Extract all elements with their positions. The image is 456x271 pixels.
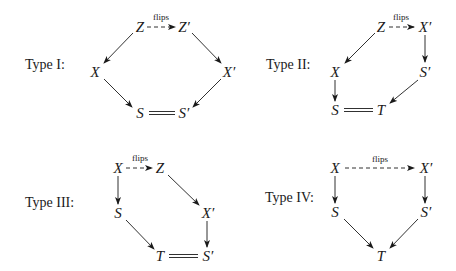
node-type1-top-left: Z [136, 19, 144, 36]
diagram-arrows [0, 0, 456, 271]
node-type4-mid-right: S′ [421, 204, 432, 221]
node-type2-top-left: Z [377, 19, 385, 36]
node-type2-bot-left: S [331, 102, 339, 119]
type3-label: Type III: [25, 195, 74, 211]
node-type4-top-right: X′ [420, 160, 432, 177]
node-type1-mid-right: X′ [223, 64, 235, 81]
type2-label: Type II: [266, 57, 311, 73]
node-type3-top-left: X [113, 160, 122, 177]
node-type2-bot-right: T [377, 102, 385, 119]
arrow-z2-x2 [192, 33, 221, 63]
flips-label-type2: flips [393, 12, 409, 22]
node-type2-top-right: X′ [419, 19, 431, 36]
node-type1-bot-right: S′ [179, 105, 190, 122]
node-type3-bot-left: T [156, 248, 164, 265]
type1-label: Type I: [25, 57, 65, 73]
node-type1-bot-left: S [136, 105, 144, 122]
node-type4-top-left: X [330, 160, 339, 177]
node-type3-top-right: Z [156, 160, 164, 177]
node-type3-bot-right: S′ [203, 248, 214, 265]
flips-label-type4: flips [372, 154, 388, 164]
node-type3-mid-right: X′ [202, 205, 214, 222]
node-type2-mid-left: X [330, 64, 339, 81]
node-type4-bot: T [377, 248, 385, 265]
arrow-x2-s2 [193, 79, 221, 107]
node-type1-top-right: Z′ [178, 19, 190, 36]
node-type3-mid-left: S [114, 205, 122, 222]
type4-label: Type IV: [265, 190, 314, 206]
node-type1-mid-left: X [90, 64, 99, 81]
flips-label-type1: flips [153, 12, 169, 22]
flips-label-type3: flips [132, 153, 148, 163]
node-type4-mid-left: S [331, 204, 339, 221]
arrow-x-s [104, 79, 132, 107]
arrow-z-x [104, 33, 133, 63]
node-type2-mid-right: S′ [420, 64, 431, 81]
